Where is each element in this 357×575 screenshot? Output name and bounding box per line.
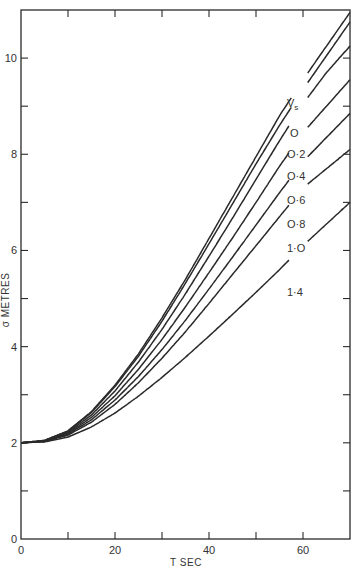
tick-labels: 02040600246810 xyxy=(5,52,309,556)
curve-label-0: O xyxy=(290,127,299,139)
curve-label-1.4: 1·4 xyxy=(287,286,303,298)
curve-vs-1.0-end xyxy=(308,150,350,185)
curve-label-0.2: O·2 xyxy=(287,148,305,160)
curve-label-0.6: O·6 xyxy=(287,194,305,206)
curve-vs-1.0 xyxy=(21,205,289,443)
sigma-vs-time-chart: OO·2O·4O·6O·81·O1·4 02040600246810 T SEC… xyxy=(0,0,357,575)
curve-vs-0.6 xyxy=(21,153,289,443)
x-tick-label: 20 xyxy=(109,544,121,556)
curve-label-1.0: 1·O xyxy=(287,242,306,254)
y-tick-label: 8 xyxy=(11,148,17,160)
curve-vs-0-end xyxy=(308,12,350,73)
curve-vs-0.2 xyxy=(21,107,291,442)
curve-vs-0.4 xyxy=(21,126,289,443)
x-tick-label: 60 xyxy=(297,544,309,556)
x-tick-label: 40 xyxy=(203,544,215,556)
legend-title: Vs xyxy=(287,97,298,112)
y-tick-label: 0 xyxy=(11,533,17,545)
axis-ticks xyxy=(21,10,350,539)
curve-vs-1.4 xyxy=(21,260,289,443)
y-tick-label: 10 xyxy=(5,52,17,64)
plot-frame xyxy=(21,10,350,539)
curve-label-0.8: O·8 xyxy=(287,218,305,230)
curve-vs-0.4-end xyxy=(308,46,350,97)
x-tick-label: 0 xyxy=(18,544,24,556)
y-tick-label: 2 xyxy=(11,437,17,449)
curve-vs-0 xyxy=(21,98,291,443)
y-axis-title: σ METRES xyxy=(0,273,11,328)
curve-vs-0.8 xyxy=(21,180,289,443)
curve-labels: OO·2O·4O·6O·81·O1·4 xyxy=(287,127,306,298)
x-axis-title: T SEC xyxy=(170,557,202,568)
y-tick-label: 4 xyxy=(11,341,17,353)
curve-vs-1.4-end xyxy=(308,202,350,241)
curve-label-0.4: O·4 xyxy=(287,170,305,182)
y-tick-label: 6 xyxy=(11,244,17,256)
